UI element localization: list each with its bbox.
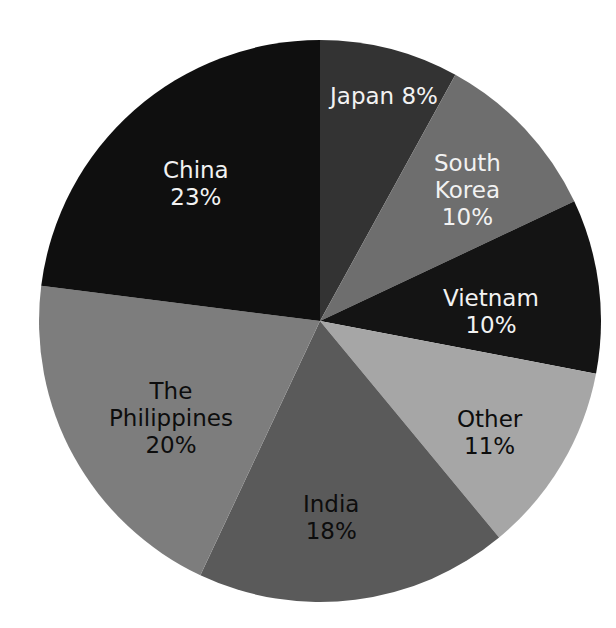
pie-slice-china[interactable] xyxy=(41,40,320,321)
pie-chart: Japan 8%SouthKorea10%Vietnam10%Other11%I… xyxy=(0,0,616,628)
pie-chart-canvas xyxy=(0,0,616,628)
pie-slice-group xyxy=(39,40,601,602)
